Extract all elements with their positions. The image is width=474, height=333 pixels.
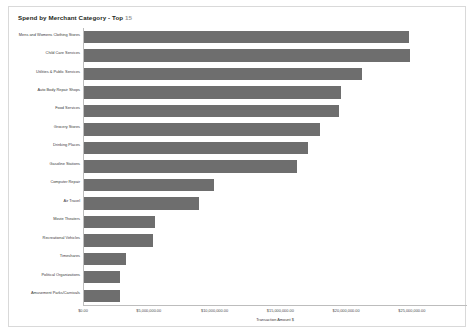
bar-row: Air Travel: [83, 194, 429, 212]
bar-chart-plot-area: Mens and Womens Clothing StoresChild Car…: [83, 28, 429, 305]
category-label: Air Travel: [64, 199, 80, 203]
bar[interactable]: [84, 216, 155, 228]
category-label: Movie Theaters: [53, 217, 80, 221]
bar[interactable]: [84, 105, 339, 117]
bar-row: Political Organizations: [83, 268, 429, 286]
category-label: Gasoline Stations: [50, 162, 81, 166]
bar-row: Child Care Services: [83, 46, 429, 64]
bar[interactable]: [84, 86, 341, 98]
category-label: Political Organizations: [42, 273, 81, 277]
bar-row: Movie Theaters: [83, 213, 429, 231]
x-axis-tick-label: $5,000,000.00: [136, 309, 161, 313]
bar-row: Grocery Stores: [83, 120, 429, 138]
x-axis-tick-label: $10,000,000.00: [201, 309, 228, 313]
bar[interactable]: [84, 68, 362, 80]
bar-row: Gasoline Stations: [83, 157, 429, 175]
x-axis-line: [83, 305, 467, 306]
bar-row: Timeshares: [83, 250, 429, 268]
bar[interactable]: [84, 123, 320, 135]
category-label: Child Care Services: [46, 51, 80, 55]
x-axis-tick-label: $25,000,000.00: [398, 309, 425, 313]
bar-row: Computer Repair: [83, 176, 429, 194]
bar[interactable]: [84, 253, 126, 265]
bar-row: Drinking Places: [83, 139, 429, 157]
bar[interactable]: [84, 290, 120, 302]
x-axis-tick-label: $20,000,000.00: [333, 309, 360, 313]
bar-row: Mens and Womens Clothing Stores: [83, 28, 429, 46]
category-label: Timeshares: [60, 254, 80, 258]
bar[interactable]: [84, 197, 199, 209]
bar-row: Food Services: [83, 102, 429, 120]
chart-title-text: Spend by Merchant Category - Top: [18, 14, 123, 21]
bar-row: Recreational Vehicles: [83, 231, 429, 249]
category-label: Amusement Parks/Carnivals: [31, 291, 80, 295]
bar-row: Utilities & Public Services: [83, 65, 429, 83]
bar[interactable]: [84, 31, 409, 43]
category-label: Recreational Vehicles: [43, 236, 80, 240]
page-title: Spend by Merchant Category - Top 15: [18, 14, 132, 21]
x-axis-title: Transaction Amount $: [83, 318, 467, 322]
bar-row: Amusement Parks/Carnivals: [83, 287, 429, 305]
bar[interactable]: [84, 142, 308, 154]
category-label: Drinking Places: [53, 143, 80, 147]
category-label: Auto Body Repair Shops: [37, 88, 80, 92]
category-label: Utilities & Public Services: [36, 70, 80, 74]
bar[interactable]: [84, 49, 410, 61]
x-axis-tick-label: $15,000,000.00: [267, 309, 294, 313]
category-label: Computer Repair: [50, 180, 80, 184]
category-label: Grocery Stores: [54, 125, 80, 129]
category-label: Mens and Womens Clothing Stores: [19, 33, 80, 37]
bar[interactable]: [84, 234, 153, 246]
bar[interactable]: [84, 271, 120, 283]
category-label: Food Services: [55, 106, 80, 110]
bar[interactable]: [84, 179, 214, 191]
bar[interactable]: [84, 160, 297, 172]
bar-row: Auto Body Repair Shops: [83, 83, 429, 101]
chart-panel: Spend by Merchant Category - Top 15 Mens…: [8, 6, 466, 327]
chart-title-count: 15: [125, 14, 132, 21]
x-axis-tick-label: $0.00: [78, 309, 88, 313]
